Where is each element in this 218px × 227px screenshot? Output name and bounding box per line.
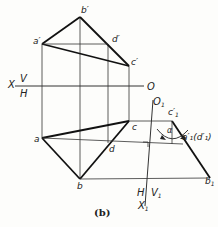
c1-subscript: 1 bbox=[175, 111, 179, 118]
edge-a-b bbox=[42, 138, 80, 179]
angle-alpha-label: α bbox=[167, 127, 172, 135]
edge-a-b-prime bbox=[42, 17, 80, 44]
v-plane-label: V bbox=[20, 74, 27, 84]
o-label: O bbox=[147, 82, 155, 92]
label-c: c bbox=[132, 123, 137, 132]
h-plane-label: H bbox=[20, 89, 28, 99]
projector-b-b1 bbox=[80, 178, 210, 179]
label-d-prime: d′ bbox=[112, 35, 120, 44]
x1-subscript: 1 bbox=[145, 205, 149, 212]
label-b: b bbox=[77, 182, 83, 191]
label-a: a bbox=[34, 135, 40, 144]
label-a1-d1-prime: a′₁(d′₁) bbox=[182, 133, 212, 142]
diagram-lines bbox=[0, 0, 218, 227]
label-b-prime: b′ bbox=[81, 6, 89, 15]
x1-label: X1 bbox=[138, 201, 149, 212]
v1-subscript: 1 bbox=[158, 192, 162, 199]
edge-a-c-prime bbox=[42, 44, 129, 66]
label-c1-prime: c′1 bbox=[168, 108, 179, 118]
x1-letter: X bbox=[138, 200, 145, 211]
label-b1: b1 bbox=[205, 177, 215, 187]
v1-label: V1 bbox=[151, 188, 162, 199]
label-d: d bbox=[109, 145, 115, 154]
figure-caption: (b) bbox=[94, 208, 110, 218]
x-axis-label: X bbox=[8, 80, 15, 90]
label-a-prime: a′ bbox=[33, 37, 41, 46]
o1-letter: O bbox=[153, 96, 161, 107]
o1-label: O1 bbox=[153, 97, 165, 108]
label-c-prime: c′ bbox=[131, 58, 138, 67]
h1-label: H bbox=[137, 188, 145, 198]
edge-b-c-prime bbox=[80, 17, 129, 66]
projection-diagram: X V H O O1 H V1 X1 a′ b′ c′ d′ a b c d c… bbox=[0, 0, 218, 227]
edge-c1-b1 bbox=[172, 121, 210, 178]
arc-arrowhead-left bbox=[160, 135, 166, 140]
o1-subscript: 1 bbox=[161, 101, 165, 108]
b1-subscript: 1 bbox=[211, 180, 215, 187]
v1-letter: V bbox=[151, 187, 158, 198]
